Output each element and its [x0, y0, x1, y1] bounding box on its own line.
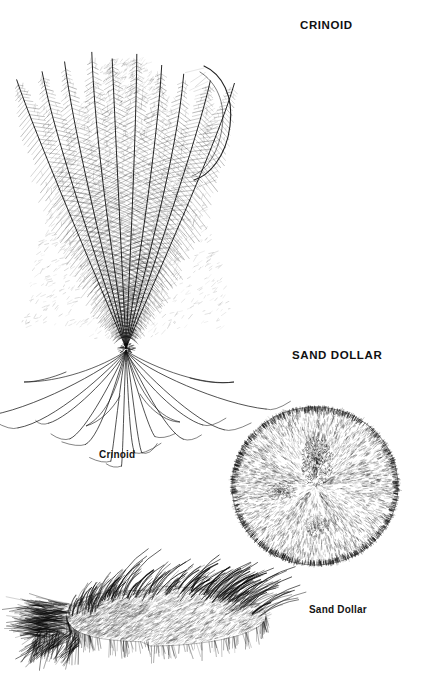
- crinoid-illustration: [8, 30, 248, 450]
- spiny-urchin-illustration: [18, 538, 290, 662]
- heading-crinoid: CRINOID: [300, 19, 353, 31]
- caption-crinoid: Crinoid: [99, 449, 135, 460]
- heading-sand-dollar: SAND DOLLAR: [292, 349, 382, 361]
- caption-sand-dollar: Sand Dollar: [309, 604, 367, 615]
- illustration-plate: CRINOID SAND DOLLAR Crinoid Sand Dollar: [0, 0, 424, 683]
- crinoid-drawing: [8, 30, 248, 450]
- spiny-urchin-drawing: [18, 538, 290, 662]
